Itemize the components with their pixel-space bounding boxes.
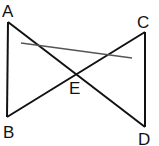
geometry-diagram: A B C D E — [0, 0, 159, 146]
label-c: C — [137, 13, 149, 32]
label-e: E — [69, 79, 80, 98]
label-d: D — [138, 130, 150, 146]
label-b: B — [3, 123, 14, 142]
label-a: A — [2, 2, 14, 21]
segment-ab — [7, 22, 8, 117]
segment-bc — [7, 32, 145, 117]
